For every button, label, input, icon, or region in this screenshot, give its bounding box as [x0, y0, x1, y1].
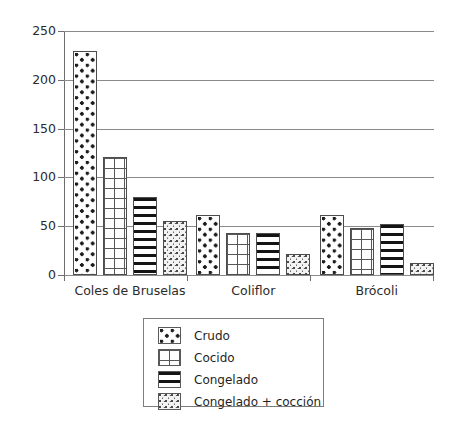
bar	[73, 51, 97, 275]
legend-item-label: Crudo	[194, 330, 230, 342]
y-axis-tick-label: 150	[10, 123, 56, 136]
y-axis-tick-label: 0	[10, 269, 56, 282]
bar	[163, 221, 187, 275]
x-axis-tick	[310, 275, 311, 281]
legend-swatch-cocido-icon	[158, 349, 181, 366]
legend-swatch-congelado-coccion-icon	[158, 393, 181, 410]
y-axis-tick-label: 50	[10, 220, 56, 233]
bar	[410, 263, 434, 275]
legend-item: Cocido	[158, 349, 235, 366]
bar-chart: 050100150200250 Coles de BruselasColiflo…	[0, 0, 451, 428]
legend-swatch-congelado-icon	[158, 371, 181, 388]
bar	[133, 197, 157, 275]
x-axis-tick	[187, 275, 188, 281]
legend-item: Crudo	[158, 327, 230, 344]
bar	[380, 224, 404, 275]
x-axis-category-label: Brócoli	[297, 285, 451, 298]
x-axis-tick	[433, 275, 434, 281]
plot-area	[64, 31, 434, 275]
y-axis-tick-label: 200	[10, 74, 56, 87]
bar	[350, 228, 374, 275]
bar	[320, 215, 344, 275]
legend-item: Congelado + cocción	[158, 393, 321, 410]
y-axis-tick-label: 250	[10, 25, 56, 38]
bar	[256, 233, 280, 275]
bar	[196, 215, 220, 276]
legend-swatch-crudo-icon	[158, 327, 181, 344]
legend-item: Congelado	[158, 371, 258, 388]
x-axis-baseline	[64, 275, 434, 276]
y-axis-tick-label: 100	[10, 171, 56, 184]
legend-item-label: Congelado	[194, 374, 258, 386]
legend-item-label: Congelado + cocción	[194, 396, 321, 408]
bar	[226, 233, 250, 275]
x-axis-tick	[64, 275, 65, 281]
bar	[286, 254, 310, 275]
legend-item-label: Cocido	[194, 352, 235, 364]
bar	[103, 157, 127, 275]
legend: Crudo Cocido Congelado Congelado + cocci…	[143, 318, 324, 407]
